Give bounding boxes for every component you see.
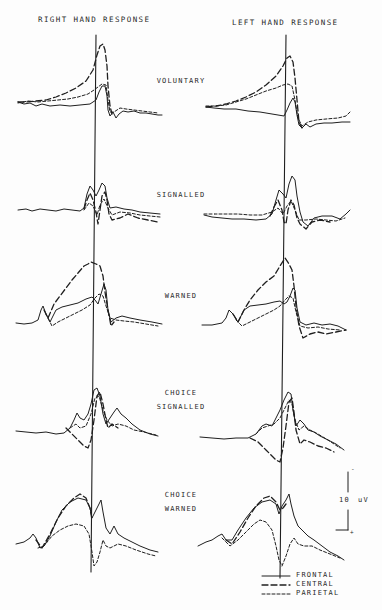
- label-choice-warned-line2: WARNED: [136, 506, 226, 513]
- central-trace: [206, 56, 302, 128]
- right-hand-title: RIGHT HAND RESPONSE: [38, 16, 150, 24]
- right-signalled-panel: [18, 183, 160, 224]
- left-hand-title: LEFT HAND RESPONSE: [232, 19, 338, 27]
- left-signalled-panel: [204, 176, 350, 229]
- left-choice-warned-panel: [198, 494, 344, 566]
- erp-figure: RIGHT HAND RESPONSE LEFT HAND RESPONSE V…: [0, 0, 382, 610]
- scale-bar-positive-sign: +: [350, 529, 355, 535]
- label-warned: WARNED: [136, 293, 226, 300]
- frontal-trace: [198, 494, 344, 560]
- central-trace: [226, 496, 286, 544]
- right-choice-warned-panel: [16, 494, 158, 566]
- frontal-trace: [206, 98, 350, 128]
- label-voluntary: VOLUNTARY: [136, 78, 226, 85]
- central-trace: [36, 494, 92, 548]
- label-choice-signalled-line2: SIGNALLED: [136, 404, 226, 411]
- parietal-trace: [70, 396, 156, 435]
- frontal-trace: [204, 176, 350, 226]
- label-choice-signalled-line1: CHOICE: [136, 390, 226, 397]
- parietal-trace: [206, 84, 351, 126]
- legend-parietal-label: PARIETAL: [296, 590, 339, 597]
- label-signalled: SIGNALLED: [136, 192, 226, 199]
- legend-swatches: [262, 576, 290, 594]
- left-choice-signalled-panel: [200, 392, 344, 462]
- frontal-trace: [200, 392, 344, 450]
- legend-central-label: CENTRAL: [296, 581, 334, 588]
- scale-bar-unit: uV: [358, 497, 369, 504]
- waveform-plots: [0, 0, 382, 610]
- label-choice-warned-line1: CHOICE: [136, 492, 226, 499]
- left-response-onset-line: [280, 35, 286, 578]
- parietal-trace: [18, 84, 158, 113]
- central-trace: [44, 262, 114, 326]
- frontal-trace: [16, 284, 162, 324]
- right-response-onset-line: [91, 35, 96, 572]
- central-trace: [250, 398, 334, 462]
- right-choice-signalled-panel: [16, 388, 158, 448]
- scale-bar-value: 10: [339, 497, 350, 504]
- left-voluntary-panel: [206, 56, 351, 128]
- central-trace: [270, 200, 330, 229]
- scale-bar-negative-sign: -: [351, 466, 356, 472]
- parietal-trace: [256, 400, 340, 448]
- legend-frontal-label: FRONTAL: [296, 572, 334, 579]
